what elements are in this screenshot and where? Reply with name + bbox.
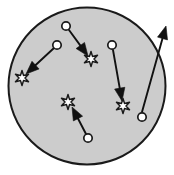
arrow-head bbox=[158, 26, 168, 40]
circle-marker-c3 bbox=[108, 41, 116, 49]
diagram-svg bbox=[0, 0, 174, 175]
circle-marker-c5 bbox=[138, 113, 146, 121]
circle-marker-c4 bbox=[84, 134, 92, 142]
circle-marker-c1 bbox=[62, 22, 70, 30]
circle-marker-c2 bbox=[53, 41, 61, 49]
diagram-canvas bbox=[0, 0, 174, 175]
